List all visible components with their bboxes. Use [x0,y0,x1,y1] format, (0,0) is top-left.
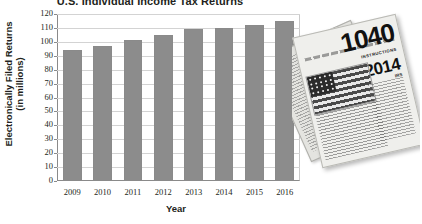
y-tick-label: 10 [27,161,53,171]
y-tick-label: 90 [27,50,53,60]
y-tick-mark [54,42,57,43]
bar [124,40,143,181]
bar [63,50,82,181]
y-tick-label: 0 [27,175,53,185]
x-tick-label: 2014 [209,187,239,197]
flag-star [332,87,334,89]
y-tick-label: 60 [27,92,53,102]
y-axis-title: Electronically Filed Returns (in million… [0,4,29,164]
bar [245,25,264,181]
flag-star [326,84,328,86]
y-tick-label: 40 [27,119,53,129]
y-tick-label: 120 [27,8,53,18]
y-tick-label: 50 [27,105,53,115]
y-tick-label: 100 [27,36,53,46]
flag-star [309,78,311,80]
y-tick-mark [54,14,57,15]
flag-star [325,79,327,81]
y-tick-mark [54,56,57,57]
flag-star [316,86,318,88]
x-axis-title: Year [56,203,296,214]
y-tick-mark [54,139,57,140]
flag-star [310,83,312,85]
x-tick-label: 2016 [270,187,300,197]
chart-figure: U.S. Individual Income Tax Returns Elect… [0,0,422,224]
y-tick-mark [54,125,57,126]
flag-star [314,77,316,79]
y-tick-mark [54,98,57,99]
flag-star [320,81,322,83]
flag-star [331,83,333,85]
y-tick-mark [54,167,57,168]
gridline [57,14,300,15]
bar [93,46,112,181]
y-tick-label: 30 [27,133,53,143]
bar [215,28,234,181]
x-tick-label: 2013 [179,187,209,197]
y-axis-title-line2: (in millions) [14,57,26,110]
y-tick-mark [54,153,57,154]
y-axis-title-line1: Electronically Filed Returns [3,21,15,146]
x-tick-label: 2011 [118,187,148,197]
flag-star [330,78,332,80]
flag-star [315,82,317,84]
y-tick-mark [54,70,57,71]
flag-star [321,85,323,87]
x-tick-label: 2009 [57,187,87,197]
flag-canton [307,72,337,97]
flag-star [328,74,330,76]
flag-star [312,92,314,94]
x-tick-label: 2012 [148,187,178,197]
flag-star [317,91,319,93]
y-tick-mark [54,28,57,29]
y-tick-mark [54,181,57,182]
y-tick-label: 70 [27,78,53,88]
y-tick-mark [54,111,57,112]
y-tick-mark [54,84,57,85]
x-tick-label: 2015 [239,187,269,197]
flag-star [322,89,324,91]
flag-star [324,75,326,77]
y-tick-label: 20 [27,147,53,157]
tax-booklet-photo: 1040 INSTRUCTIONS 2014 IRS [292,4,420,176]
y-tick-label: 110 [27,22,53,32]
bar [184,29,203,181]
bar [154,35,173,181]
flag-star [327,88,329,90]
flag-star [311,87,313,89]
chart-title: U.S. Individual Income Tax Returns [0,0,300,7]
y-tick-label: 80 [27,64,53,74]
x-tick-label: 2010 [87,187,117,197]
flag-star [319,76,321,78]
